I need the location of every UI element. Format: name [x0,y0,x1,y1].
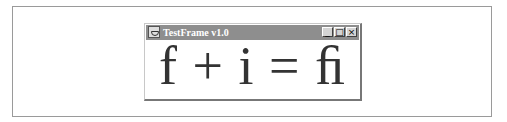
close-button[interactable]: × [346,27,357,37]
test-frame-window: TestFrame v1.0 _ □ × f + i = ﬁ [144,23,362,101]
window-content: f + i = ﬁ [146,40,359,98]
ligature-equation: f + i = ﬁ [159,39,346,93]
